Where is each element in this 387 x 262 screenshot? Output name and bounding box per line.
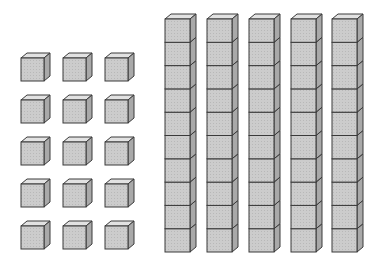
base-ten-blocks-diagram <box>0 0 387 262</box>
unit-cube <box>63 179 92 207</box>
rod-cube <box>207 14 238 42</box>
unit-cube <box>105 137 134 165</box>
ten-rods-group <box>165 14 363 252</box>
unit-cube <box>105 53 134 81</box>
ten-rod <box>249 14 280 252</box>
unit-cube <box>105 95 134 123</box>
ten-rod <box>291 14 322 252</box>
unit-cube <box>63 221 92 249</box>
ten-rod <box>207 14 238 252</box>
rod-cube <box>291 14 322 42</box>
unit-cube <box>63 53 92 81</box>
unit-cube <box>21 95 50 123</box>
ten-rod <box>165 14 196 252</box>
rod-cube <box>249 14 280 42</box>
unit-cube <box>63 137 92 165</box>
unit-cube <box>21 221 50 249</box>
unit-cube <box>105 179 134 207</box>
unit-cube <box>21 179 50 207</box>
unit-cube <box>21 53 50 81</box>
rod-cube <box>165 14 196 42</box>
rod-cube <box>332 14 363 42</box>
unit-cube <box>105 221 134 249</box>
unit-cube <box>63 95 92 123</box>
unit-cube <box>21 137 50 165</box>
ten-rod <box>332 14 363 252</box>
unit-cubes-group <box>21 53 134 249</box>
